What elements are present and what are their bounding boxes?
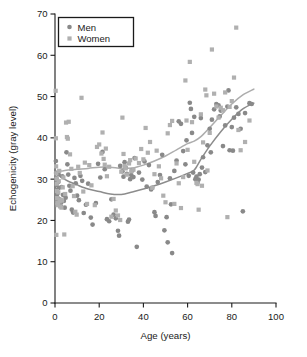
data-point-women <box>118 218 122 222</box>
data-point-women <box>186 148 190 152</box>
data-point-women <box>168 123 172 127</box>
data-point-men <box>98 175 103 180</box>
data-point-women <box>59 206 63 210</box>
data-point-women <box>243 140 247 144</box>
data-point-women <box>61 175 65 179</box>
data-point-women <box>199 112 203 116</box>
data-point-women <box>56 190 60 194</box>
data-point-men <box>117 233 122 238</box>
data-point-women <box>146 151 150 155</box>
data-point-men <box>231 148 236 153</box>
data-point-women <box>210 47 214 51</box>
data-point-men <box>165 240 170 245</box>
data-point-men <box>116 228 121 233</box>
y-tick-label: 10 <box>37 256 48 267</box>
x-axis-title: Age (years) <box>140 330 190 341</box>
data-point-women <box>184 118 188 122</box>
data-point-women <box>89 183 93 187</box>
data-point-men <box>187 100 192 105</box>
data-point-men <box>80 178 85 183</box>
data-point-women <box>139 147 143 151</box>
data-point-women <box>100 130 104 134</box>
data-point-women <box>152 172 156 176</box>
data-point-women <box>103 163 107 167</box>
data-point-women <box>163 200 167 204</box>
data-point-women <box>107 165 111 169</box>
data-point-women <box>157 164 161 168</box>
data-point-women <box>60 199 64 203</box>
data-point-women <box>93 203 97 207</box>
data-point-men <box>137 170 142 175</box>
data-point-women <box>57 179 61 183</box>
scatter-plot: 010203040506070020406080100Age (years)Ec… <box>0 0 307 357</box>
data-point-men <box>162 228 167 233</box>
x-tick-label: 80 <box>227 311 238 322</box>
data-point-women <box>120 116 124 120</box>
data-point-women <box>227 105 231 109</box>
data-point-women <box>121 152 125 156</box>
data-point-women <box>76 165 80 169</box>
data-point-women <box>109 215 113 219</box>
data-point-women <box>170 119 174 123</box>
legend[interactable]: MenWomen <box>59 18 134 47</box>
data-point-women <box>66 137 70 141</box>
data-point-women <box>239 148 243 152</box>
data-point-men <box>186 173 191 178</box>
data-point-women <box>190 120 194 124</box>
data-point-men <box>66 172 71 177</box>
data-point-women <box>166 131 170 135</box>
data-point-women <box>177 181 181 185</box>
data-point-women <box>85 202 89 206</box>
data-point-women <box>67 120 71 124</box>
data-point-women <box>79 96 83 100</box>
data-point-men <box>207 126 212 131</box>
data-point-men <box>181 149 186 154</box>
data-point-men <box>249 102 254 107</box>
data-point-women <box>54 89 58 93</box>
y-axis-title: Echogenicity (gray level) <box>7 106 18 212</box>
data-point-men <box>190 131 195 136</box>
axis-labels-layer: 010203040506070020406080100Age (years)Ec… <box>7 8 284 341</box>
data-point-men <box>221 144 226 149</box>
data-point-women <box>104 146 108 150</box>
data-point-women <box>247 118 251 122</box>
data-point-men <box>147 163 152 168</box>
data-point-men <box>191 170 196 175</box>
data-point-women <box>68 152 72 156</box>
data-point-women <box>155 149 159 153</box>
data-point-men <box>241 209 246 214</box>
data-point-men <box>229 125 234 130</box>
data-point-women <box>141 157 145 161</box>
data-point-men <box>168 176 173 181</box>
x-tick-label: 0 <box>52 311 57 322</box>
data-point-men <box>72 176 77 181</box>
data-point-women <box>225 215 229 219</box>
data-point-women <box>221 108 225 112</box>
data-point-women <box>208 131 212 135</box>
data-point-women <box>116 213 120 217</box>
data-point-women <box>124 166 128 170</box>
data-point-men <box>179 121 184 126</box>
trend-lines-layer <box>55 89 254 194</box>
data-point-women <box>102 157 106 161</box>
data-point-women <box>197 208 201 212</box>
legend-label-men: Men <box>78 22 96 33</box>
data-point-women <box>54 164 58 168</box>
x-tick-label: 20 <box>94 311 105 322</box>
y-tick-label: 20 <box>37 215 48 226</box>
data-point-men <box>90 222 95 227</box>
data-point-men <box>200 165 205 170</box>
data-point-women <box>99 151 103 155</box>
data-point-men <box>232 115 237 120</box>
data-point-men <box>210 117 215 122</box>
data-point-women <box>61 185 65 189</box>
data-point-men <box>134 245 139 250</box>
data-point-women <box>144 126 148 130</box>
data-point-men <box>88 215 93 220</box>
data-point-men <box>96 162 101 167</box>
data-point-women <box>236 128 240 132</box>
data-point-men <box>77 198 82 203</box>
trend-line-men <box>55 103 254 194</box>
data-point-women <box>71 184 75 188</box>
data-point-men <box>118 164 123 169</box>
